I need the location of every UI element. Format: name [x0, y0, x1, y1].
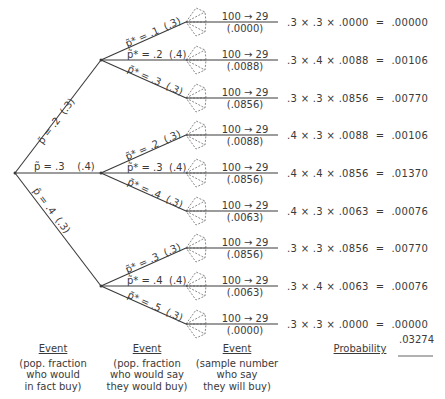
product-row-5: .4 × .3 × .0063 = .00076 [287, 206, 428, 217]
outcome-1: 100 → 29(.0088) [210, 49, 280, 72]
outcome-2: 100 → 29(.0856) [210, 87, 280, 110]
branch-label-l2-2-1: p̃* = .4 (.4) [127, 276, 186, 286]
product-row-7: .3 × .4 × .0063 = .00076 [287, 281, 428, 292]
outcome-7: 100 → 29(.0063) [210, 275, 280, 298]
footer-col-2: Event (pop. fraction who would say they … [102, 343, 192, 392]
branch-label-l2-0-1: p̃* = .2 (.4) [127, 50, 186, 60]
product-row-4: .4 × .4 × .0856 = .01370 [287, 168, 428, 179]
footer-col-1-head: Event [8, 343, 98, 355]
probability-total: .03274 [399, 335, 434, 345]
branch-label-l1-1: p̃ = .3 (.4) [34, 162, 95, 172]
product-row-8: .3 × .3 × .0000 = .00000 [287, 319, 428, 330]
outcome-0: 100 → 29(.0000) [210, 11, 280, 34]
product-row-0: .3 × .3 × .0000 = .00000 [287, 17, 428, 28]
outcome-5: 100 → 29(.0063) [210, 200, 280, 223]
footer-col-4: Probability [320, 343, 400, 358]
branch-label-l2-1-1: p̃* = .3 (.4) [127, 163, 186, 173]
outcome-8: 100 → 29(.0000) [210, 313, 280, 336]
footer-col-4-head: Probability [320, 343, 400, 355]
footer-col-3: Event (sample number who say they will b… [192, 343, 282, 392]
footer-col-3-head: Event [192, 343, 282, 355]
outcome-6: 100 → 29(.0856) [210, 237, 280, 260]
product-row-1: .3 × .4 × .0088 = .00106 [287, 55, 428, 66]
product-row-3: .4 × .3 × .0088 = .00106 [287, 130, 428, 141]
product-row-6: .3 × .3 × .0856 = .00770 [287, 243, 428, 254]
footer-col-2-head: Event [102, 343, 192, 355]
footer-col-1: Event (pop. fraction who would in fact b… [8, 343, 98, 392]
outcome-3: 100 → 29(.0088) [210, 124, 280, 147]
outcome-4: 100 → 29(.0856) [210, 162, 280, 185]
product-row-2: .3 × .3 × .0856 = .00770 [287, 93, 428, 104]
